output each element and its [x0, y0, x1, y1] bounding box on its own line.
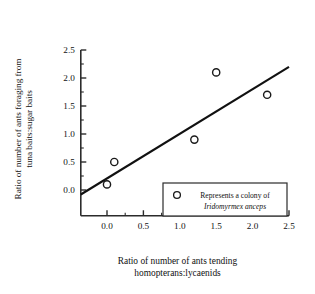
- y-tick-label: 1.0: [63, 129, 75, 139]
- x-tick-label: 2.5: [283, 221, 295, 231]
- legend-line-2-species: Iridomyrmex anceps: [203, 202, 266, 211]
- data-point-marker: [103, 181, 110, 188]
- legend-line-1: Represents a colony of: [200, 191, 270, 200]
- y-tick-label: 2.0: [63, 73, 75, 83]
- legend-box: [163, 183, 287, 216]
- y-tick-label: 0.5: [63, 157, 75, 167]
- data-point-marker: [111, 158, 118, 165]
- x-tick-label: 2.0: [247, 221, 259, 231]
- data-point-marker: [191, 136, 198, 143]
- x-tick-label: 0.0: [101, 221, 113, 231]
- legend-group: Represents a colony ofIridomyrmex anceps: [163, 183, 287, 216]
- x-tick-label: 1.5: [210, 221, 222, 231]
- x-tick-label: 0.5: [138, 221, 150, 231]
- x-tick-label: 1.0: [174, 221, 186, 231]
- scatter-plot-figure: Ratio of number of ants foraging from tu…: [0, 0, 315, 294]
- trendline: [81, 67, 289, 195]
- trendline-group: [81, 67, 289, 195]
- y-tick-label: 1.5: [63, 101, 75, 111]
- y-tick-label: 2.5: [63, 45, 75, 55]
- x-axis-title: Ratio of number of ants tending homopter…: [55, 255, 300, 279]
- y-tick-label: 0.0: [63, 185, 75, 195]
- data-point-marker: [264, 91, 271, 98]
- plot-canvas: 0.00.51.01.52.02.50.00.51.01.52.02.5 Rep…: [0, 0, 315, 294]
- data-point-marker: [213, 69, 220, 76]
